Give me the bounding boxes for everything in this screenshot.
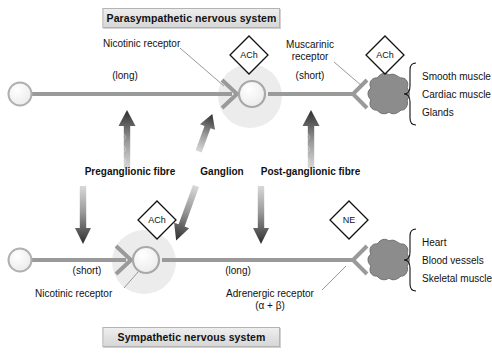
parasympathetic-preganglionic-length: (long) <box>95 70 155 82</box>
sympathetic-effector-1: Heart <box>422 237 446 249</box>
parasympathetic-effector-2: Cardiac muscle <box>422 89 491 101</box>
ach-ganglion-text: ACh <box>240 50 258 60</box>
arrow-ganglion-upper <box>191 111 220 154</box>
leader-parasympathetic-nicotinic <box>180 48 224 86</box>
preganglionic-fibre-label: Preganglionic fibre <box>60 166 200 178</box>
parasympathetic-postganglionic-length: (short) <box>280 70 340 82</box>
sympathetic-preganglionic-length: (short) <box>57 265 117 277</box>
arrow-postganglionic-upper <box>303 110 320 168</box>
parasympathetic-muscarinic-label-line2: receptor <box>272 51 348 63</box>
sympathetic-pathway: ACh NE <box>9 201 417 294</box>
ach-diamond-parasympathetic-effector: ACh <box>366 36 404 74</box>
parasympathetic-ganglion-soma <box>239 81 265 107</box>
sympathetic-title-text: Sympathetic nervous system <box>118 331 266 343</box>
parasympathetic-title-banner: Parasympathetic nervous system <box>102 8 280 28</box>
ne-effector-text: NE <box>343 215 356 225</box>
parasympathetic-effector-organ <box>368 73 409 113</box>
parasympathetic-preganglionic-soma <box>9 83 32 106</box>
parasympathetic-muscarinic-label-line1: Muscarinic <box>272 39 348 51</box>
parasympathetic-effector-3: Glands <box>422 107 454 119</box>
arrow-postganglionic-lower <box>253 186 269 244</box>
sympathetic-adrenergic-label-line2: (α + β) <box>215 300 325 312</box>
sympathetic-effector-3: Skeletal muscle <box>422 273 492 285</box>
sympathetic-postganglionic-length: (long) <box>208 265 268 277</box>
sympathetic-adrenergic-synapse <box>353 246 367 274</box>
parasympathetic-effector-brace <box>404 63 416 125</box>
parasympathetic-nicotinic-label: Nicotinic receptor <box>103 38 180 50</box>
leader-sympathetic-adrenergic <box>322 266 346 290</box>
sympathetic-preganglionic-soma <box>9 249 32 272</box>
sympathetic-effector-2: Blood vessels <box>422 255 484 267</box>
sympathetic-nicotinic-label: Nicotinic receptor <box>35 288 112 300</box>
sympathetic-ganglion-soma <box>133 247 159 273</box>
parasympathetic-title-text: Parasympathetic nervous system <box>107 12 277 24</box>
sympathetic-title-banner: Sympathetic nervous system <box>102 327 280 347</box>
parasympathetic-effector-1: Smooth muscle <box>422 71 491 83</box>
postganglionic-fibre-label: Post-ganglionic fibre <box>238 166 383 178</box>
arrow-ganglion-lower <box>169 183 204 243</box>
ach-effector-text: ACh <box>376 50 394 60</box>
ne-diamond-sympathetic-effector: NE <box>330 201 368 239</box>
arrow-preganglionic-upper <box>119 110 136 168</box>
sympathetic-effector-brace <box>404 229 416 291</box>
ach-sympathetic-text: ACh <box>148 215 166 225</box>
sympathetic-adrenergic-label-line1: Adrenergic receptor <box>215 288 325 300</box>
sympathetic-effector-organ <box>368 239 409 279</box>
arrow-preganglionic-lower <box>75 186 91 244</box>
